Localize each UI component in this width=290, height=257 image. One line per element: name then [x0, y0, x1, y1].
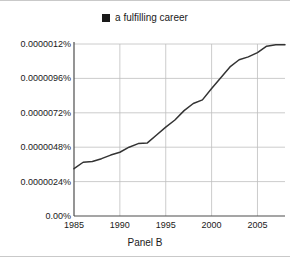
x-tick-label: 1985 [64, 221, 84, 230]
y-tick-label: 0.0000012% [20, 40, 71, 49]
chart-figure: a fulfilling career 0.00%0.0000024%0.000… [0, 0, 290, 257]
data-series-group [74, 45, 285, 169]
y-tick-label: 0.0000024% [20, 177, 71, 186]
y-tick-label: 0.0000072% [20, 108, 71, 117]
x-tick-label: 1995 [156, 221, 176, 230]
y-tick-label: 0.0000096% [20, 74, 71, 83]
x-tick-label: 2005 [247, 221, 267, 230]
y-tick-label: 0.0000048% [20, 143, 71, 152]
gridlines-group [74, 44, 285, 216]
series-line [74, 45, 285, 169]
x-tick-label: 1990 [110, 221, 130, 230]
axis-lines-group [74, 42, 285, 216]
x-tick-label: 2000 [202, 221, 222, 230]
panel-caption: Panel B [0, 237, 290, 248]
